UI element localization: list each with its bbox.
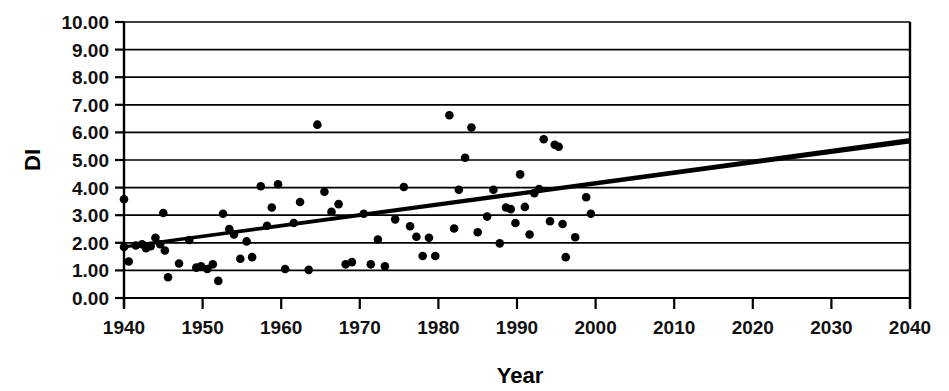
data-point xyxy=(267,203,276,212)
x-tick-label: 2040 xyxy=(889,317,931,338)
x-axis-tick-labels: 1940195019601970198019902000201020202030… xyxy=(103,317,931,338)
y-axis-title: DI xyxy=(20,149,45,171)
data-point xyxy=(296,198,305,207)
x-tick-label: 1980 xyxy=(417,317,459,338)
scatter-chart: 0.001.002.003.004.005.006.007.008.009.00… xyxy=(0,0,949,391)
data-point xyxy=(445,111,454,120)
data-point xyxy=(263,221,272,230)
data-point xyxy=(281,265,290,274)
data-point xyxy=(236,255,245,264)
data-point xyxy=(506,205,515,214)
x-axis-ticks xyxy=(124,298,910,309)
x-tick-label: 1960 xyxy=(260,317,302,338)
x-tick-label: 1950 xyxy=(181,317,223,338)
data-point xyxy=(359,210,368,219)
data-point xyxy=(546,217,555,226)
data-point xyxy=(571,233,580,242)
data-point xyxy=(304,266,313,275)
data-point xyxy=(431,252,440,261)
x-tick-label: 2030 xyxy=(810,317,852,338)
trend-line xyxy=(124,138,910,249)
data-point xyxy=(334,200,343,209)
data-point xyxy=(587,210,596,219)
data-point xyxy=(525,230,534,239)
x-tick-label: 1940 xyxy=(103,317,145,338)
data-point xyxy=(348,258,357,267)
data-point xyxy=(483,212,492,221)
y-tick-label: 1.00 xyxy=(72,260,109,281)
y-tick-label: 9.00 xyxy=(72,40,109,61)
data-point xyxy=(473,228,482,237)
data-point xyxy=(391,215,400,224)
data-point xyxy=(495,239,504,248)
data-point xyxy=(230,230,239,239)
data-point xyxy=(161,246,170,255)
y-tick-label: 5.00 xyxy=(72,150,109,171)
data-point xyxy=(124,257,133,266)
data-point xyxy=(219,210,228,219)
y-tick-label: 7.00 xyxy=(72,95,109,116)
data-point xyxy=(146,242,155,251)
data-point xyxy=(467,123,476,132)
data-point xyxy=(511,219,520,228)
y-tick-label: 8.00 xyxy=(72,67,109,88)
data-point xyxy=(418,252,427,261)
chart-container: 0.001.002.003.004.005.006.007.008.009.00… xyxy=(0,0,949,391)
data-point xyxy=(425,234,434,243)
data-point-markers xyxy=(120,111,595,285)
x-axis-title: Year xyxy=(497,363,544,388)
x-tick-label: 2020 xyxy=(732,317,774,338)
data-point xyxy=(558,220,567,229)
y-tick-label: 10.00 xyxy=(61,12,109,33)
data-point xyxy=(582,193,591,202)
y-tick-label: 0.00 xyxy=(72,288,109,309)
data-point xyxy=(381,262,390,271)
data-point xyxy=(516,170,525,179)
x-tick-label: 2000 xyxy=(574,317,616,338)
data-point xyxy=(327,208,336,217)
data-point xyxy=(185,236,194,245)
data-point xyxy=(412,232,421,241)
data-point xyxy=(214,277,223,286)
data-point xyxy=(256,182,265,191)
x-tick-label: 2010 xyxy=(653,317,695,338)
data-point xyxy=(248,253,257,262)
plot-frame xyxy=(124,22,910,308)
data-point xyxy=(461,153,470,162)
x-tick-label: 1990 xyxy=(496,317,538,338)
data-point xyxy=(367,260,376,269)
data-point xyxy=(489,186,498,195)
data-point xyxy=(406,222,415,231)
data-point xyxy=(164,273,173,282)
x-tick-label: 1970 xyxy=(339,317,381,338)
data-point xyxy=(320,187,329,196)
data-point xyxy=(374,235,383,244)
data-point xyxy=(521,203,530,212)
data-point xyxy=(554,142,563,151)
data-point xyxy=(209,260,218,269)
data-point xyxy=(535,185,544,194)
trend-line-band xyxy=(124,138,910,249)
y-tick-label: 3.00 xyxy=(72,205,109,226)
data-point xyxy=(120,195,129,204)
y-axis-ticks xyxy=(115,22,124,298)
y-tick-label: 4.00 xyxy=(72,178,109,199)
data-point xyxy=(561,253,570,262)
data-point xyxy=(274,180,283,189)
data-point xyxy=(450,224,459,233)
y-tick-label: 6.00 xyxy=(72,122,109,143)
data-point xyxy=(242,237,251,246)
data-point xyxy=(159,209,168,218)
data-point xyxy=(400,183,409,192)
data-point xyxy=(455,186,464,195)
y-axis-tick-labels: 0.001.002.003.004.005.006.007.008.009.00… xyxy=(61,12,109,309)
y-tick-label: 2.00 xyxy=(72,233,109,254)
data-point xyxy=(175,259,184,268)
data-point xyxy=(313,120,322,129)
data-point xyxy=(289,219,298,228)
data-point xyxy=(120,243,129,252)
data-point xyxy=(539,135,548,144)
